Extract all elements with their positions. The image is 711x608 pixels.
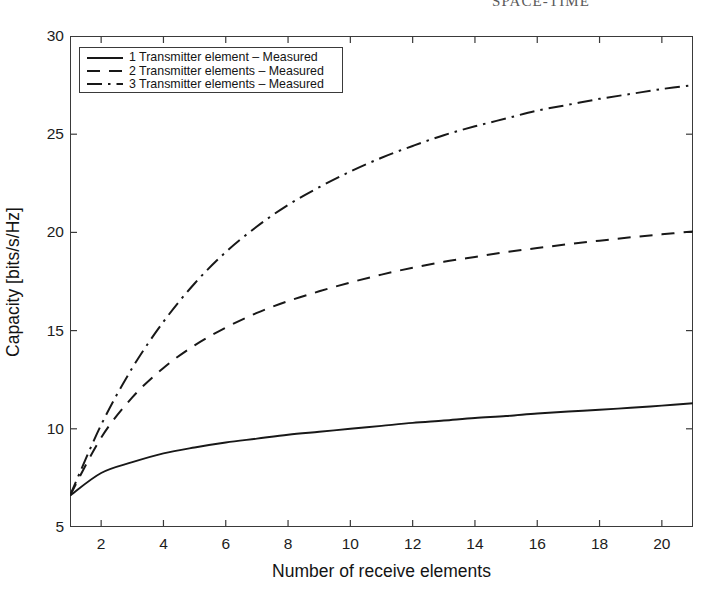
y-tick-label: 5 [30, 519, 64, 535]
chart-legend: 1 Transmitter element – Measured2 Transm… [79, 47, 343, 93]
series-line-1 [70, 403, 693, 495]
legend-item-label: 3 Transmitter elements – Measured [125, 78, 324, 90]
legend-item-label: 1 Transmitter element – Measured [125, 51, 318, 63]
y-tick-label: 15 [30, 323, 64, 339]
data-series-group [70, 85, 693, 495]
y-axis-title-wrap: Capacity [bits/s/Hz] [0, 36, 26, 527]
plot-area [70, 36, 693, 527]
legend-item: 1 Transmitter element – Measured [85, 51, 336, 64]
y-tick-label: 30 [30, 28, 64, 44]
y-axis-title: Capacity [bits/s/Hz] [3, 207, 24, 357]
x-tick-label: 20 [642, 536, 682, 552]
capacity-vs-receive-elements-chart: 51015202530 2468101214161820 Number of r… [0, 0, 711, 608]
legend-item: 3 Transmitter elements – Measured [85, 78, 336, 91]
x-tick-label: 12 [393, 536, 433, 552]
solid-line-icon [85, 52, 125, 64]
dashdot-line-icon [85, 78, 125, 90]
x-tick-label: 16 [517, 536, 557, 552]
x-tick-label: 6 [206, 536, 246, 552]
series-line-3 [70, 85, 693, 495]
x-axis-title: Number of receive elements [70, 561, 693, 582]
y-axis-tick-labels: 51015202530 [26, 0, 64, 608]
legend-item-label: 2 Transmitter elements – Measured [125, 65, 324, 77]
x-tick-label: 18 [580, 536, 620, 552]
legend-item: 2 Transmitter elements – Measured [85, 64, 336, 77]
x-tick-label: 2 [81, 536, 121, 552]
y-tick-label: 25 [30, 126, 64, 142]
x-tick-label: 10 [330, 536, 370, 552]
x-tick-label: 8 [268, 536, 308, 552]
x-tick-label: 14 [455, 536, 495, 552]
dashed-line-icon [85, 65, 125, 77]
y-tick-label: 10 [30, 421, 64, 437]
x-tick-label: 4 [143, 536, 183, 552]
x-axis-tick-labels: 2468101214161820 [0, 536, 711, 560]
y-tick-label: 20 [30, 224, 64, 240]
series-line-2 [70, 231, 693, 495]
